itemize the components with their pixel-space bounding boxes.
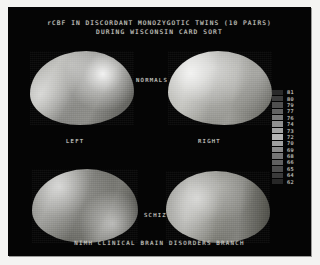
label-right: RIGHT — [198, 138, 221, 144]
colorbar-swatch — [272, 109, 283, 114]
colorbar-swatch — [272, 121, 283, 126]
colorbar-swatch — [272, 134, 283, 139]
title-line-1: rCBF IN DISCORDANT MONOZYGOTIC TWINS (10… — [8, 18, 311, 27]
slide-frame: rCBF IN DISCORDANT MONOZYGOTIC TWINS (10… — [0, 0, 320, 265]
colorbar-value: 73 — [287, 128, 294, 134]
brain-scan-normals-right — [168, 51, 272, 125]
colorbar-value: 66 — [287, 159, 294, 165]
colorbar-swatch — [272, 102, 283, 107]
colorbar-swatch — [272, 90, 283, 95]
colorbar-value: 65 — [287, 166, 294, 172]
colorbar-legend: 818079777674737270696866656462 — [272, 89, 310, 185]
colorbar-swatch — [272, 147, 283, 152]
label-schiz: SCHIZ — [144, 212, 167, 218]
brain-scan-normals-left — [30, 51, 134, 125]
slide-footer: NIMH CLINICAL BRAIN DISORDERS BRANCH — [8, 240, 311, 246]
brain-tissue-map — [32, 169, 138, 243]
colorbar-value: 64 — [287, 172, 294, 178]
colorbar-swatch — [272, 115, 283, 120]
label-normals: NORMALS — [136, 77, 168, 83]
brain-tissue-map — [166, 171, 270, 243]
slide-title: rCBF IN DISCORDANT MONOZYGOTIC TWINS (10… — [8, 18, 311, 36]
brain-scan-schiz-right — [166, 171, 270, 243]
colorbar-row: 62 — [272, 178, 310, 184]
colorbar-value: 81 — [287, 89, 294, 95]
slide-plate: rCBF IN DISCORDANT MONOZYGOTIC TWINS (10… — [8, 7, 311, 256]
colorbar-value: 70 — [287, 140, 294, 146]
colorbar-swatch — [272, 141, 283, 146]
brain-tissue-map — [168, 51, 272, 125]
colorbar-value: 76 — [287, 115, 294, 121]
colorbar-value: 80 — [287, 96, 294, 102]
colorbar-value: 74 — [287, 121, 294, 127]
colorbar-swatch — [272, 96, 283, 101]
colorbar-swatch — [272, 128, 283, 133]
colorbar-swatch — [272, 153, 283, 158]
colorbar-swatch — [272, 173, 283, 178]
colorbar-value: 62 — [287, 179, 294, 185]
colorbar-value: 77 — [287, 108, 294, 114]
colorbar-swatch — [272, 160, 283, 165]
colorbar-swatch — [272, 179, 283, 184]
brain-scan-schiz-left — [32, 169, 138, 243]
label-left: LEFT — [66, 138, 84, 144]
title-line-2: DURING WISCONSIN CARD SORT — [8, 27, 311, 36]
brain-tissue-map — [30, 51, 134, 125]
colorbar-value: 69 — [287, 147, 294, 153]
colorbar-swatch — [272, 166, 283, 171]
